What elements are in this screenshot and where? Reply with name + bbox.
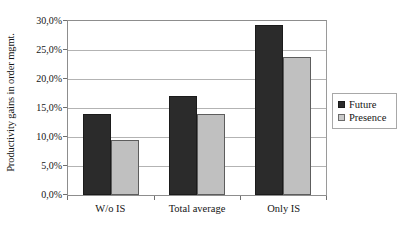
bar-presence xyxy=(111,140,139,195)
bar-presence xyxy=(197,114,225,195)
x-axis-tick-mark xyxy=(326,196,327,200)
x-axis-tick-label: Only IS xyxy=(267,203,300,215)
y-axis-title-text: Productivity gains in order mgmt. xyxy=(5,33,16,172)
bar-group xyxy=(68,21,154,195)
y-axis-tick-label: 20,0% xyxy=(36,74,62,84)
bar-presence xyxy=(283,57,311,195)
light-square-swatch xyxy=(338,114,345,121)
legend-item[interactable]: Future xyxy=(338,98,392,111)
legend-item-label: Presence xyxy=(349,112,386,124)
dark-square-swatch xyxy=(338,101,345,108)
y-axis-tick-labels: 0,0%5,0%10,0%15,0%20,0%25,0%30,0% xyxy=(18,0,66,238)
y-axis-title: Productivity gains in order mgmt. xyxy=(0,0,20,205)
x-axis-tick-labels: W/o ISTotal averageOnly IS xyxy=(67,203,327,223)
x-axis-tick-label: Total average xyxy=(169,203,226,215)
y-axis-tick-label: 5,0% xyxy=(41,161,62,171)
x-axis-tick-marks xyxy=(67,196,327,201)
bar-future xyxy=(255,25,283,195)
bar-group xyxy=(154,21,240,195)
bar-future xyxy=(83,114,111,195)
x-axis-tick-mark xyxy=(154,196,155,200)
x-axis-tick-mark xyxy=(240,196,241,200)
chart-legend: FuturePresence xyxy=(332,93,397,129)
bar-group xyxy=(240,21,326,195)
x-axis-tick-mark xyxy=(67,196,68,200)
legend-item-label: Future xyxy=(349,99,376,111)
y-axis-tick-label: 0,0% xyxy=(41,190,62,200)
y-axis-tick-label: 30,0% xyxy=(36,16,62,26)
y-axis-tick-label: 10,0% xyxy=(36,132,62,142)
y-axis-tick-label: 25,0% xyxy=(36,45,62,55)
bar-chart: Productivity gains in order mgmt. 0,0%5,… xyxy=(0,0,407,238)
x-axis-tick-label: W/o IS xyxy=(95,203,125,215)
bars-layer xyxy=(68,21,326,195)
bar-future xyxy=(169,96,197,195)
y-axis-tick-label: 15,0% xyxy=(36,103,62,113)
legend-item[interactable]: Presence xyxy=(338,111,392,124)
